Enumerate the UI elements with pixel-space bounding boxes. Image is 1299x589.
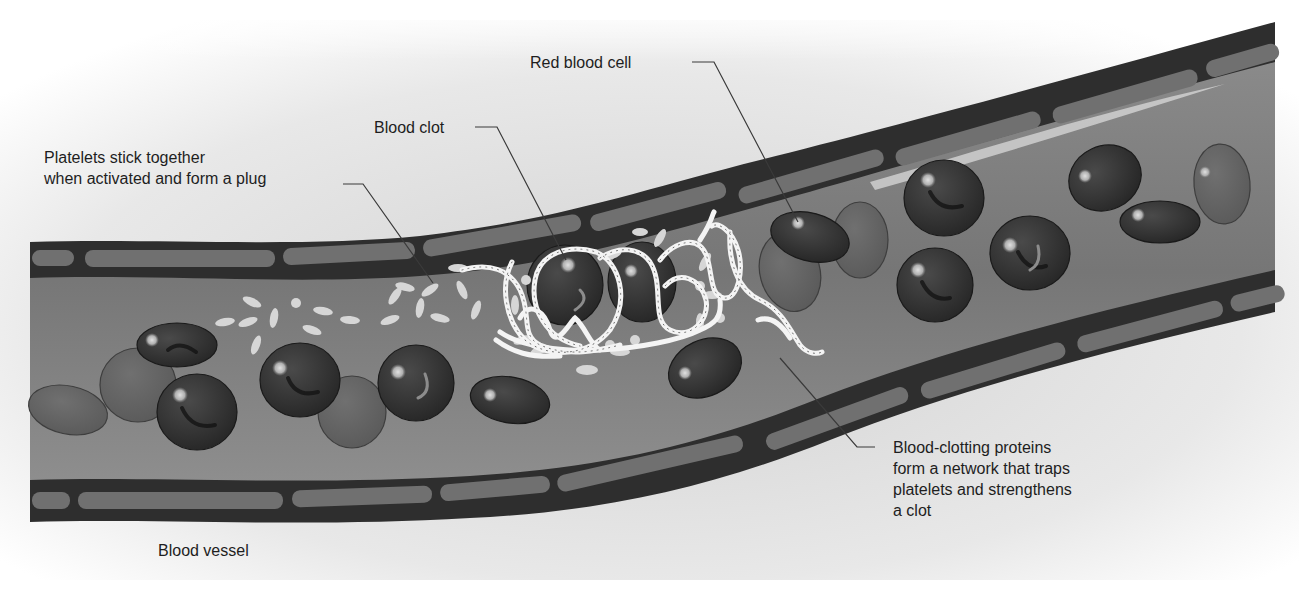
label-blood-vessel: Blood vessel [158, 540, 249, 561]
blood-clot-diagram: Platelets stick together when activated … [0, 0, 1299, 589]
red-blood-cell [157, 374, 237, 450]
diagram-canvas [0, 0, 1299, 589]
red-blood-cell [1120, 201, 1200, 243]
label-blood-clot: Blood clot [374, 117, 444, 138]
red-blood-cell [260, 343, 340, 417]
red-blood-cell [897, 248, 973, 322]
red-blood-cell [904, 160, 984, 236]
red-blood-cell [378, 345, 454, 421]
label-clotting-proteins: Blood-clotting proteins form a network t… [893, 437, 1072, 521]
label-platelets: Platelets stick together when activated … [44, 147, 266, 189]
label-red-blood-cell: Red blood cell [530, 52, 631, 73]
red-blood-cell [990, 216, 1070, 290]
